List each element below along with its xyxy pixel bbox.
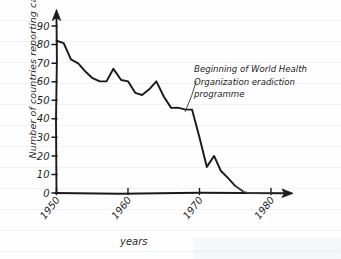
line-chart-plot: 01020304050607080901950196019701980 <box>0 0 341 259</box>
annotation-who-programme: Beginning of World Health Organization e… <box>194 63 338 101</box>
chart-figure: 01020304050607080901950196019701980 Numb… <box>0 0 341 259</box>
y-tick-label: 30 <box>37 132 50 143</box>
data-line-tail <box>235 186 271 193</box>
annotation-line-2: Organization eradiction <box>194 76 338 89</box>
y-tick-label: 0 <box>43 188 49 199</box>
x-tick-label: 1950 <box>38 194 62 221</box>
y-tick-label: 50 <box>37 95 50 106</box>
y-axis <box>52 10 60 195</box>
y-tick-label: 60 <box>37 76 50 87</box>
y-tick-label: 40 <box>37 113 50 124</box>
y-tick-label: 80 <box>37 39 50 50</box>
y-tick-label: 70 <box>37 58 50 69</box>
x-axis-title: years <box>120 236 148 247</box>
x-tick-label: 1970 <box>181 194 205 221</box>
y-tick-label: 90 <box>37 21 50 32</box>
annotation-line-1: Beginning of World Health <box>194 63 338 76</box>
y-tick-group: 0102030405060708090 <box>37 21 57 199</box>
x-tick-label: 1980 <box>252 194 276 221</box>
y-axis-title: Number of countries reporting cases <box>27 0 38 160</box>
y-tick-label: 20 <box>37 151 50 162</box>
y-tick-label: 10 <box>37 169 50 180</box>
x-tick-label: 1960 <box>109 194 133 221</box>
annotation-line-3: programme <box>194 88 338 101</box>
